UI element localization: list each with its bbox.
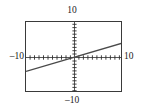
plot-canvas — [26, 22, 122, 92]
y-max-label: 10 — [0, 6, 144, 16]
y-min-label: –10 — [0, 96, 144, 106]
graph-figure: 10 –10 –10 10 — [0, 0, 144, 112]
x-max-label: 10 — [124, 52, 144, 62]
plot-frame — [25, 21, 122, 92]
x-min-label: –10 — [1, 52, 24, 62]
